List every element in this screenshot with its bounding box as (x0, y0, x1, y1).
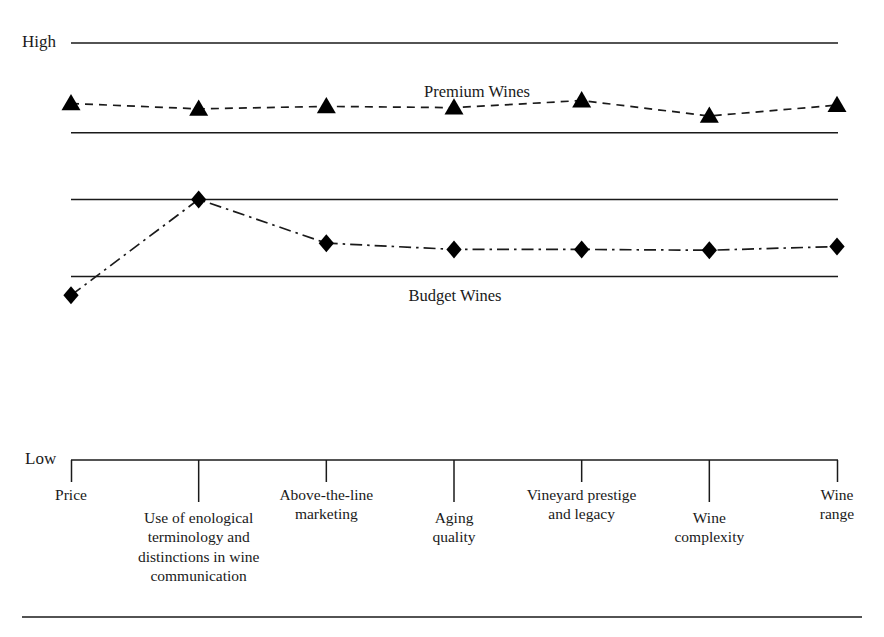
tick-label-6-line-1: range (737, 504, 884, 523)
data-point-premium-2 (317, 97, 336, 113)
data-point-budget-0 (63, 286, 78, 304)
series-markers-group (62, 91, 847, 304)
data-point-budget-6 (829, 237, 844, 255)
data-point-premium-1 (189, 99, 208, 115)
tick-label-0: Price (0, 485, 171, 504)
tick-label-6: Winerange (737, 485, 884, 524)
tick-label-6-line-0: Wine (737, 485, 884, 504)
axis-low-label: Low (25, 449, 56, 469)
tick-label-3-line-1: quality (354, 527, 554, 546)
tick-label-5-line-1: complexity (609, 527, 809, 546)
data-point-premium-4 (572, 91, 591, 107)
data-point-budget-1 (191, 190, 206, 208)
data-point-budget-5 (702, 241, 717, 259)
data-point-premium-0 (62, 94, 81, 110)
data-point-budget-4 (574, 240, 589, 258)
data-point-premium-6 (828, 96, 847, 112)
tick-label-1-line-2: distinctions in wine (99, 547, 299, 566)
tick-label-1-line-1: terminology and (99, 527, 299, 546)
tick-label-0-line-0: Price (0, 485, 171, 504)
series-label-budget-wines: Budget Wines (409, 286, 502, 306)
tick-label-2-line-0: Above-the-line (226, 485, 426, 504)
series-label-premium-wines: Premium Wines (424, 82, 530, 102)
tick-label-4-line-0: Vineyard prestige (482, 485, 682, 504)
axis-high-label: High (22, 32, 56, 52)
strategy-canvas-chart: High Low Premium Wines Budget Wines Pric… (0, 0, 884, 637)
tick-label-1-line-3: communication (99, 566, 299, 585)
data-point-budget-3 (446, 240, 461, 258)
data-point-budget-2 (319, 234, 334, 252)
bottom-axis-group (71, 460, 838, 502)
series-paths-group (71, 101, 837, 296)
